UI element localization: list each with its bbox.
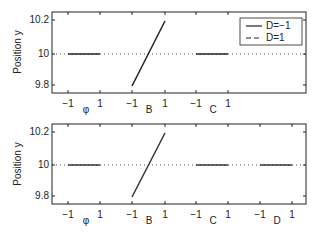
top-xtick-label: 1 [97,98,103,109]
top-xtick-label: 1 [225,98,231,109]
bottom-group-label-b: B [146,215,153,226]
top-xticks [68,12,228,93]
bottom-axes-frame [52,124,306,204]
bottom-xtick-label: −1 [190,209,202,220]
top-xtick-label: −1 [62,98,74,109]
bottom-xtick-label: 1 [162,209,168,220]
bottom-ylabel: Position y [12,142,23,185]
bottom-xtick-label: −1 [254,209,266,220]
top-ylabel: Position y [12,30,23,73]
bottom-xtick-label: 1 [97,209,103,220]
top-group-label-phi: φ [83,104,90,115]
bottom-axes: 10.2 10 9.8 Position y −1 1 −1 1 −1 1 −1… [12,124,306,226]
top-group-label-c: C [209,104,216,115]
top-xtick-label: −1 [126,98,138,109]
top-ytick-label: 9.8 [35,79,49,90]
top-group-label-b: B [146,104,153,115]
top-xtick-label: −1 [190,98,202,109]
legend-label-d-minus-1: D=−1 [266,20,291,31]
bottom-xtick-label: −1 [126,209,138,220]
bottom-group-label-d: D [273,215,280,226]
bottom-ytick-label: 10 [38,159,50,170]
top-axes: 10.2 10 9.8 Position y −1 1 −1 1 −1 1 φ … [12,12,306,115]
top-series-d-minus-1 [68,21,228,86]
bottom-group-label-phi: φ [83,215,90,226]
bottom-xtick-label: 1 [225,209,231,220]
top-xtick-label: 1 [162,98,168,109]
bottom-xtick-label: 1 [289,209,295,220]
bottom-group-label-c: C [209,215,216,226]
bottom-ytick-label: 10.2 [30,126,50,137]
legend: D=−1 D=1 [240,18,302,45]
bottom-ytick-label: 9.8 [35,190,49,201]
bottom-xtick-label: −1 [62,209,74,220]
legend-label-d-1: D=1 [266,32,285,43]
top-ytick-label: 10 [38,48,50,59]
bottom-xticks [68,124,292,204]
figure: 10.2 10 9.8 Position y −1 1 −1 1 −1 1 φ … [0,0,321,236]
bottom-yticks [52,132,306,196]
top-ytick-label: 10.2 [30,14,50,25]
